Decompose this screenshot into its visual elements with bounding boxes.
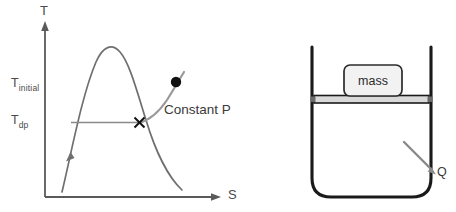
heat-transfer-label: Q	[437, 166, 447, 179]
t-axis-arrowhead	[41, 21, 49, 31]
state-point-dot	[171, 77, 181, 87]
t-initial-subscript: initial	[19, 83, 40, 93]
s-axis-arrowhead	[211, 193, 221, 200]
figure-canvas: T S Tinitial Tdp Constant P mass Q	[0, 0, 456, 212]
t-dp-label: Tdp	[11, 114, 29, 129]
vapor-dome-curve	[62, 47, 182, 192]
t-initial-label: Tinitial	[11, 77, 39, 92]
t-dp-base: T	[11, 113, 19, 127]
process-direction-arrowhead	[66, 152, 75, 162]
piston-seal-left	[311, 97, 316, 103]
heat-arrow-shaft	[404, 142, 432, 170]
t-dp-subscript: dp	[19, 120, 29, 130]
t-initial-base: T	[11, 76, 19, 90]
x-axis-label: S	[228, 188, 237, 201]
y-axis-label: T	[40, 4, 48, 17]
piston-seal-right	[428, 97, 433, 103]
mass-block-label: mass	[344, 65, 402, 96]
constant-pressure-label: Constant P	[164, 103, 231, 117]
